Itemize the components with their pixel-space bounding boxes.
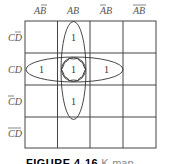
row-header-cd: CD bbox=[8, 64, 23, 75]
col-header-abar-b: AB bbox=[99, 5, 112, 16]
col-header-ab: AB bbox=[66, 5, 79, 16]
column-headers: AB AB AB AB bbox=[33, 5, 146, 16]
col-header-a-bbar: AB bbox=[33, 5, 46, 16]
karnaugh-map: AB AB AB AB CD CD CD CD 1 1 1 1 bbox=[0, 0, 171, 164]
row-headers: CD CD CD CD bbox=[8, 32, 23, 139]
row-header-cbar-d: CD bbox=[8, 96, 23, 107]
cell-ab-cbard: 1 bbox=[71, 96, 76, 107]
row-header-c-dbar: CD bbox=[8, 32, 23, 43]
row-header-cbar-dbar: CD bbox=[8, 128, 23, 139]
figure-caption: FIGURE 4-16 K-map ... bbox=[26, 156, 146, 164]
kmap-grid bbox=[25, 21, 156, 148]
col-header-abar-bbar: AB bbox=[132, 5, 145, 16]
figure-number: FIGURE 4-16 bbox=[26, 157, 98, 164]
cell-abarb-cd: 1 bbox=[104, 64, 109, 75]
cell-abbar-cd: 1 bbox=[39, 64, 44, 75]
figure-caption-text: K-map ... bbox=[101, 157, 146, 164]
cell-ab-cdbar: 1 bbox=[71, 32, 76, 43]
cell-ab-cd: 1 bbox=[71, 64, 76, 75]
cell-values: 1 1 1 1 1 bbox=[39, 32, 109, 107]
